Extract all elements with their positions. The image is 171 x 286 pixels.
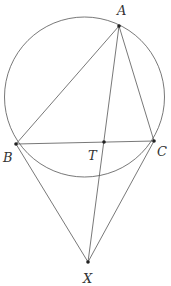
- point-t: [102, 140, 106, 144]
- segment-ax: [88, 26, 119, 262]
- segment-bc: [16, 141, 154, 144]
- label-c: C: [157, 144, 167, 159]
- point-b: [14, 142, 18, 146]
- segment-ab: [16, 26, 119, 144]
- tangent-bx: [16, 144, 88, 262]
- label-b: B: [2, 150, 13, 165]
- segment-ac: [119, 26, 154, 141]
- diagram-svg: A B C T X: [0, 0, 171, 286]
- point-c: [152, 139, 156, 143]
- label-a: A: [116, 3, 126, 18]
- label-t: T: [88, 148, 98, 163]
- point-a: [117, 24, 121, 28]
- tangent-cx: [88, 141, 154, 262]
- label-x: X: [82, 271, 93, 286]
- point-x: [86, 260, 90, 264]
- geometry-diagram: A B C T X: [0, 0, 171, 286]
